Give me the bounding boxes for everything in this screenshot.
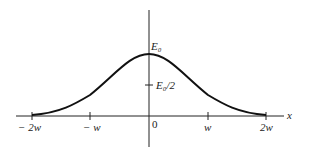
x-axis-label: x [286,109,292,121]
tick-label-negw: − w [83,121,101,133]
tick-label-neg2w: − 2w [18,121,42,133]
gaussian-diagram: x − 2w − w 0 w 2w E₀ E₀/2 [0,0,309,153]
half-label: E₀/2 [155,79,176,91]
tick-label-w: w [204,121,212,133]
peak-label: E₀ [150,40,162,52]
tick-label-2w: 2w [260,121,274,133]
tick-label-0: 0 [152,118,158,130]
